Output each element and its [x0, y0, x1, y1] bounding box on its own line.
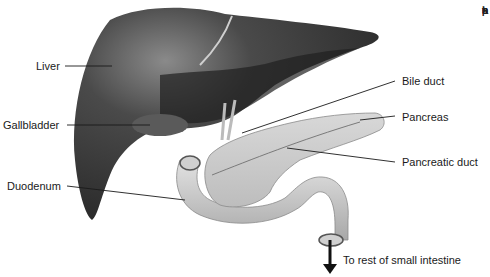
label-bile-duct: Bile duct — [402, 75, 444, 87]
anatomy-illustration — [0, 0, 490, 277]
label-small-intestine: To rest of small intestine — [343, 254, 461, 266]
label-gallbladder: Gallbladder — [3, 119, 59, 131]
label-liver: Liver — [36, 60, 60, 72]
label-pancreatic-duct: Pancreatic duct — [402, 156, 478, 168]
margin-char: p — [482, 4, 488, 17]
label-pancreas: Pancreas — [402, 111, 448, 123]
label-duodenum: Duodenum — [7, 180, 61, 192]
